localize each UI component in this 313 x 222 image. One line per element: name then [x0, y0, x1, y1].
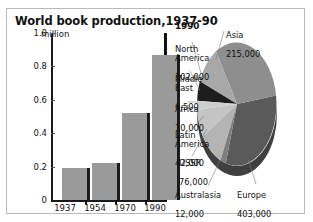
- x-axis-line: [51, 200, 166, 202]
- bar-chart: million 1.0 0.8 0.6 0.4 0.2 0: [7, 9, 169, 213]
- x-label-1937: 1937: [48, 203, 82, 213]
- x-label-1990: 1990: [138, 203, 172, 213]
- pie-label-europe: Europe 403,000: [237, 181, 271, 219]
- bar-series: [53, 33, 165, 200]
- pie-label-asia: Asia 215,000: [226, 21, 260, 59]
- pie-label-australasia: Australasia 12,000: [175, 181, 221, 219]
- x-label-1954: 1954: [78, 203, 112, 213]
- figure-frame: World book production,1937-90 million 1.…: [6, 8, 305, 214]
- bar-1937: [62, 168, 87, 200]
- bar-1954: [92, 163, 117, 200]
- pie-chart: 1990: [170, 9, 306, 213]
- bar-1970: [122, 113, 147, 200]
- x-label-1970: 1970: [108, 203, 142, 213]
